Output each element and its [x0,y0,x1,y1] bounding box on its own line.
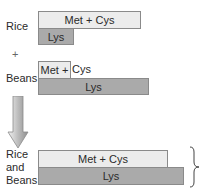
beans-lys-bar: Lys [38,78,149,95]
rice-met-cys-bar: Met + Cys [38,11,141,29]
combined-lys-bar: Lys [38,167,184,185]
rice-lys-bar: Lys [38,28,74,45]
combined-label-line1: Rice [6,148,37,161]
combined-label: Rice and Beans [6,148,37,187]
combined-label-line2: and [6,161,37,174]
right-brace-icon [189,146,201,188]
combined-lys-text: Lys [103,170,120,182]
combined-met-cys-bar: Met + Cys [38,150,168,168]
beans-met-cys-text: Met + [41,64,69,76]
combined-met-cys-text: Met + Cys [78,153,128,165]
rice-label: Rice [6,20,28,33]
plus-sign: + [12,48,18,61]
combined-label-line3: Beans [6,174,37,187]
rice-met-cys-text: Met + Cys [65,14,115,26]
rice-lys-text: Lys [48,31,65,43]
beans-met-cys-bar: Met + [38,61,71,79]
beans-label: Beans [6,72,37,85]
down-arrow-icon [7,96,29,150]
beans-lys-text: Lys [85,81,102,93]
beans-met-cys-overflow-text: Cys [72,61,91,78]
